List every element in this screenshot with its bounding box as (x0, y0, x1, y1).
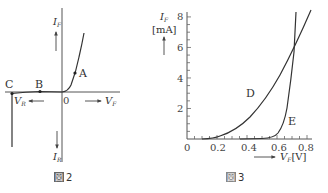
fig3-y-tick-8: 8 (177, 11, 183, 22)
fig2-ir-label: IR (52, 151, 62, 163)
svg-text:図: 図 (55, 173, 63, 182)
fig3-caption-number: 3 (238, 172, 244, 183)
fig3-y-tick-2: 2 (177, 103, 183, 114)
fig2-point-a-label: A (78, 67, 88, 80)
fig2-point-b-label: B (35, 78, 43, 91)
fig2-point-c (10, 92, 13, 95)
fig3-curve-e-label: E (288, 115, 296, 128)
figure-3-iv-chart: 2 4 6 8 0 0.2 0.4 0.6 0.8 IF [mA] VF[V] … (152, 10, 314, 183)
figures-canvas: IF IR VF VR 0 A B C 図 (0, 0, 328, 193)
fig3-caption: 図 3 (226, 172, 244, 183)
fig3-x-label: VF[V] (280, 151, 307, 163)
fig2-vf-label: VF (105, 95, 117, 107)
fig3-y-ticks (187, 17, 191, 131)
svg-text:図: 図 (227, 173, 235, 182)
fig2-forward-curve (62, 33, 84, 92)
fig2-vr-label: VR (14, 95, 26, 107)
figure-2-diode-characteristic: IF IR VF VR 0 A B C 図 (5, 8, 120, 183)
fig2-caption-number: 2 (66, 172, 72, 183)
fig3-y-tick-6: 6 (177, 42, 183, 53)
fig3-curve-d-label: D (246, 87, 255, 100)
fig2-if-label: IF (52, 16, 62, 28)
fig2-caption: 図 2 (54, 172, 72, 183)
fig3-x-tick-0: 0 (184, 142, 190, 153)
fig3-y-label: IF (159, 11, 169, 23)
fig3-y-tick-4: 4 (177, 73, 183, 84)
fig3-y-unit: [mA] (152, 24, 177, 35)
fig2-point-a (73, 71, 76, 74)
fig2-origin-label: 0 (63, 95, 69, 106)
fig3-x-tick-0.2: 0.2 (210, 142, 226, 153)
fig3-x-tick-0.4: 0.4 (241, 142, 257, 153)
fig2-point-c-label: C (5, 78, 13, 91)
